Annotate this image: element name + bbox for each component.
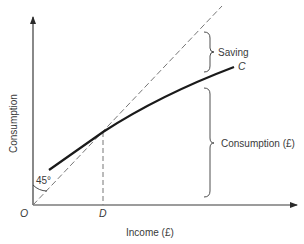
consumption-curve [49,67,234,170]
saving-brace [204,32,214,72]
break-even-label: D [99,207,107,219]
45-degree-line [33,6,222,205]
saving-label: Saving [218,47,249,58]
consumption-function-chart: O D C 45° Saving Consumption (£) Income … [0,0,304,244]
consumption-brace [204,88,214,197]
x-axis-label: Income (£) [126,227,174,238]
consumption-brace-label: Consumption (£) [221,138,295,149]
curve-label: C [238,60,246,72]
angle-label: 45° [36,175,51,186]
y-axis-label: Consumption [8,94,19,153]
origin-label: O [20,207,28,219]
